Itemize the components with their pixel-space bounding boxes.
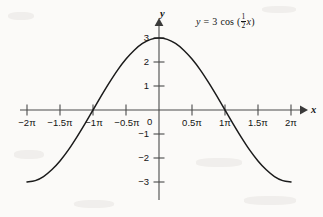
equation-open-paren: ( — [237, 16, 240, 27]
equation-annotation: y=3cos(12x) — [196, 13, 255, 29]
y-tick-label-2: 2 — [133, 57, 149, 67]
x-tick-label-2pi: 2π — [285, 118, 297, 128]
x-axis-label: x — [311, 105, 316, 116]
equation-function: cos — [220, 16, 234, 27]
y-tick-label--3: −3 — [130, 177, 149, 187]
equation-close-paren: ) — [251, 16, 254, 27]
x-tick-label--1.5pi: −1.5π — [47, 118, 72, 128]
y-axis-label: y — [160, 9, 165, 20]
equation-fraction: 12 — [241, 13, 246, 29]
equation-amplitude: 3 — [212, 16, 217, 27]
cosine-graph-figure: −2π −1.5π −1π −0.5π 0.5π 1π 1.5π 2π 0 3 … — [0, 0, 323, 217]
y-tick-label-1: 1 — [133, 81, 149, 91]
x-tick-label--2pi: −2π — [18, 118, 35, 128]
y-tick-label--1: −1 — [130, 129, 149, 139]
equation-equals: = — [204, 16, 210, 27]
y-tick-label-3: 3 — [133, 33, 149, 43]
origin-label: 0 — [147, 117, 152, 127]
x-tick-label-1pi: 1π — [219, 118, 231, 128]
x-tick-label--1pi: −1π — [85, 118, 102, 128]
fraction-denominator: 2 — [241, 22, 246, 30]
x-tick-label--0.5pi: −0.5π — [114, 118, 139, 128]
x-tick-label-1.5pi: 1.5π — [248, 118, 268, 128]
x-tick-label-0.5pi: 0.5π — [182, 118, 202, 128]
y-tick-label--2: −2 — [130, 153, 149, 163]
plot-area — [0, 0, 323, 217]
x-axis-arrow — [300, 106, 308, 115]
equation-lhs: y — [196, 16, 201, 27]
